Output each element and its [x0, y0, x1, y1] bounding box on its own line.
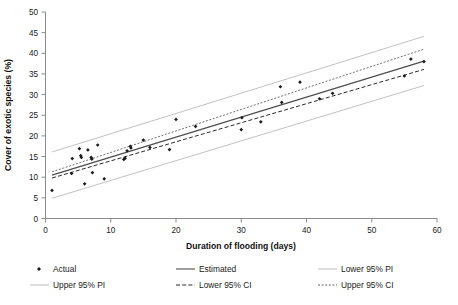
data-point-marker: [86, 148, 90, 152]
data-point-marker: [91, 171, 95, 175]
y-tick-label: 15: [29, 153, 39, 162]
data-point-marker: [70, 157, 74, 161]
x-tick-label: 40: [302, 226, 312, 235]
data-point-marker: [78, 147, 82, 151]
legend-diamond-marker-icon: [37, 267, 41, 271]
x-axis-ticks: 0102030405060: [43, 219, 442, 236]
series-line-estimated: [52, 61, 424, 175]
legend-item: Lower 95% PI: [318, 264, 393, 274]
y-tick-label: 5: [33, 194, 38, 203]
legend-item: Estimated: [176, 264, 237, 274]
data-point-marker: [174, 118, 178, 122]
legend-item-label: Lower 95% PI: [341, 264, 393, 274]
y-tick-label: 25: [29, 111, 39, 120]
data-point-marker: [280, 101, 284, 105]
legend-item-label: Estimated: [199, 264, 237, 274]
data-point-marker: [50, 189, 54, 193]
data-point-marker: [409, 57, 413, 61]
x-tick-label: 60: [432, 226, 442, 235]
legend-item-label: Upper 95% CI: [341, 280, 394, 290]
legend-item: Lower 95% CI: [176, 280, 252, 290]
data-point-marker: [331, 92, 335, 96]
x-axis-title: Duration of flooding (days): [186, 241, 296, 251]
y-tick-label: 0: [33, 215, 38, 224]
chart-series-lines: [52, 36, 424, 198]
series-line-lower-pi: [52, 86, 424, 199]
series-line-upper-pi: [52, 36, 424, 152]
data-point-marker: [239, 128, 243, 132]
y-axis-title: Cover of exotic species (%): [3, 59, 13, 171]
series-line-upper-ci: [52, 49, 424, 172]
legend-item-label: Upper 95% PI: [53, 280, 105, 290]
x-tick-label: 10: [106, 226, 116, 235]
legend-item: Upper 95% PI: [30, 280, 105, 290]
data-point-marker: [259, 120, 263, 124]
y-tick-label: 50: [29, 8, 39, 17]
legend-item: Upper 95% CI: [318, 280, 394, 290]
y-tick-label: 35: [29, 70, 39, 79]
series-line-lower-ci: [52, 69, 424, 178]
data-point-marker: [298, 80, 302, 84]
y-axis-ticks: 05101520253035404550: [29, 8, 46, 224]
x-tick-label: 0: [43, 226, 48, 235]
data-point-marker: [83, 182, 87, 186]
data-point-marker: [422, 60, 426, 64]
chart-figure: 05101520253035404550 0102030405060 Cover…: [0, 0, 458, 305]
chart-legend: ActualEstimatedLower 95% PIUpper 95% PIL…: [30, 264, 394, 290]
data-point-marker: [148, 146, 152, 150]
chart-axes: [46, 12, 438, 219]
data-point-marker: [168, 148, 172, 152]
x-tick-label: 50: [367, 226, 377, 235]
data-point-marker: [102, 177, 106, 181]
y-tick-label: 45: [29, 29, 39, 38]
legend-item: Actual: [37, 264, 76, 274]
x-tick-label: 20: [171, 226, 181, 235]
y-tick-label: 10: [29, 173, 39, 182]
y-tick-label: 20: [29, 132, 39, 141]
y-tick-label: 30: [29, 91, 39, 100]
data-point-marker: [96, 143, 100, 147]
data-point-marker: [194, 125, 198, 129]
y-tick-label: 40: [29, 49, 39, 58]
data-point-marker: [279, 85, 283, 89]
legend-item-label: Lower 95% CI: [199, 280, 252, 290]
legend-item-label: Actual: [53, 264, 76, 274]
scatter-chart: 05101520253035404550 0102030405060 Cover…: [0, 0, 458, 305]
x-tick-label: 30: [237, 226, 247, 235]
